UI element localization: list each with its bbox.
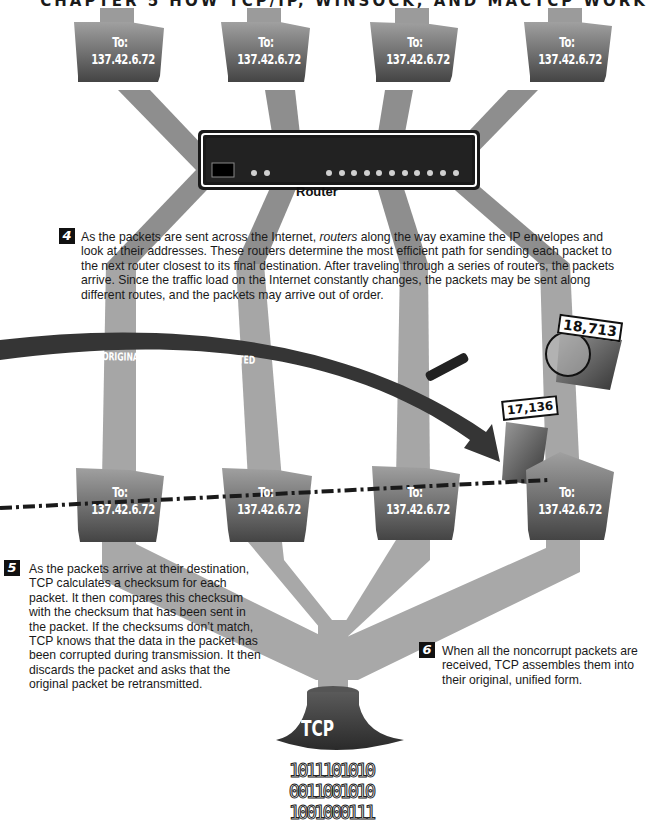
tcp-funnel (276, 686, 404, 750)
top-packet-1: To:137.42.6.72 (91, 34, 149, 68)
step-4-text: As the packets are sent across the Inter… (81, 230, 626, 302)
bottom-packet-4: To:137.42.6.72 (538, 484, 596, 518)
top-packet-3: To:137.42.6.72 (386, 34, 444, 68)
corrupt-packet-graphic (424, 332, 622, 390)
step-6-badge: 6 (419, 642, 435, 658)
bottom-packet-2: To:137.42.6.72 (237, 484, 295, 518)
top-pipes (100, 8, 582, 30)
step-4-badge: 4 (59, 228, 75, 244)
step-6-text: When all the noncorrupt packets are rece… (442, 644, 642, 687)
top-packet-shapes (74, 22, 612, 82)
bottom-packet-3: To:137.42.6.72 (386, 484, 444, 518)
router-device (198, 130, 480, 190)
router-label: Router (296, 184, 338, 199)
top-packet-2: To:137.42.6.72 (237, 34, 295, 68)
step-5-badge: 5 (4, 560, 20, 576)
tcp-label: TCP (301, 716, 334, 741)
tcp-output-binary: 1011101010 0011001010 1001000111 (286, 760, 376, 822)
bottom-packet-1: To:137.42.6.72 (91, 484, 149, 518)
step-5-text: As the packets arrive at their destinati… (29, 562, 261, 692)
top-packet-4: To:137.42.6.72 (538, 34, 596, 68)
